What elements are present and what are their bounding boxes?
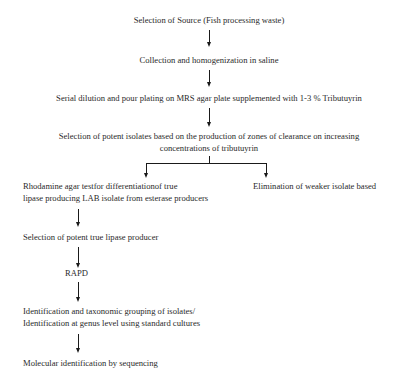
arrowhead-icon xyxy=(76,222,80,227)
arrowhead-icon xyxy=(264,173,268,178)
arrow-rhodamine-to-true-lipase xyxy=(78,209,79,223)
node-identification-line1: Identification and taxonomic grouping of… xyxy=(23,306,195,317)
arrowhead-icon xyxy=(207,82,211,87)
node-collection: Collection and homogenization in saline xyxy=(140,55,279,66)
arrowhead-icon xyxy=(207,42,211,47)
arrowhead-icon xyxy=(76,297,80,302)
node-rhodamine-line2: lipase producing LAB isolate from estera… xyxy=(23,193,208,204)
node-selection-line1: Selection of potent isolates based on th… xyxy=(59,131,359,142)
node-rhodamine-line1: Rhodamine agar testfor differentiationof… xyxy=(23,181,177,192)
branch-horizontal-connector xyxy=(146,163,267,164)
node-true-lipase: Selection of potent true lipase producer xyxy=(23,232,158,243)
node-molecular: Molecular identification by sequencing xyxy=(23,358,158,369)
arrowhead-icon xyxy=(144,173,148,178)
node-identification-line2: Identification at genus level using stan… xyxy=(23,318,200,329)
arrow-identification-to-molecular xyxy=(78,334,79,349)
node-selection-line2: concentrations of tributuyrin xyxy=(160,143,258,154)
node-rapd: RAPD xyxy=(65,268,88,279)
arrow-rapd-to-identification xyxy=(78,282,79,298)
arrow-dilution-to-selection xyxy=(209,108,210,123)
node-elimination: Elimination of weaker isolate based xyxy=(253,181,376,192)
arrow-true-lipase-to-rapd xyxy=(78,247,79,264)
node-source: Selection of Source (Fish processing was… xyxy=(134,15,285,26)
branch-stem xyxy=(209,156,210,163)
arrowhead-icon xyxy=(207,122,211,127)
arrowhead-icon xyxy=(76,348,80,353)
node-dilution: Serial dilution and pour plating on MRS … xyxy=(56,93,362,104)
